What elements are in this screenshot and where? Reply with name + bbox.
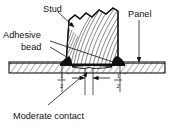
stud-panel-cross-section-svg: 1 2 " 1 2 " Stud Panel Adhesive bead Mod… <box>0 0 174 131</box>
dim-right-numerator: 1 <box>116 72 119 79</box>
label-moderate-contact: Moderate contact <box>13 111 84 121</box>
label-panel: Panel <box>128 9 152 19</box>
dim-left-numerator: 1 <box>60 72 63 79</box>
dim-right-denominator: 2 <box>116 82 119 89</box>
label-stud: Stud <box>43 4 62 14</box>
label-adhesive-line2: bead <box>21 42 41 52</box>
label-adhesive-line1: Adhesive <box>3 30 41 40</box>
diagram-canvas: 1 2 " 1 2 " Stud Panel Adhesive bead Mod… <box>0 0 174 131</box>
dim-left-denominator: 2 <box>60 82 63 89</box>
